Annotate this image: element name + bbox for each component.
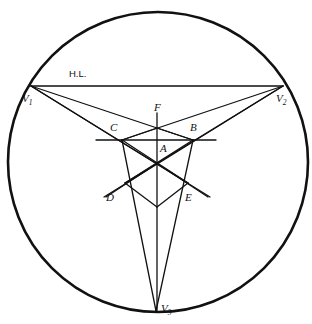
diagram-canvas: H.L. V1 V2 V3 F C B A D E	[0, 0, 312, 324]
label-v2-subscript: 2	[283, 98, 287, 107]
label-v2-text: V	[276, 92, 283, 104]
ray-v3-to-c	[122, 140, 156, 311]
label-d: D	[106, 192, 114, 203]
label-v1-subscript: 1	[29, 98, 33, 107]
perspective-diagram-svg	[0, 0, 312, 324]
edge-b-f	[157, 128, 193, 140]
label-v3-subscript: 3	[168, 308, 172, 317]
edge-d-g	[125, 183, 157, 207]
label-v1: V1	[22, 93, 32, 107]
label-c: C	[110, 122, 117, 133]
edge-e-g	[157, 183, 188, 207]
label-v2: V2	[276, 93, 286, 107]
label-e: E	[185, 192, 192, 203]
label-a: A	[160, 143, 167, 154]
edge-b-d	[125, 140, 193, 183]
label-v3-text: V	[161, 302, 168, 314]
label-v1-text: V	[22, 92, 29, 104]
label-v3: V3	[161, 303, 171, 317]
edge-c-f	[122, 128, 157, 140]
label-f: F	[154, 102, 161, 113]
horizon-line-label: H.L.	[69, 69, 86, 79]
label-b: B	[190, 122, 197, 133]
